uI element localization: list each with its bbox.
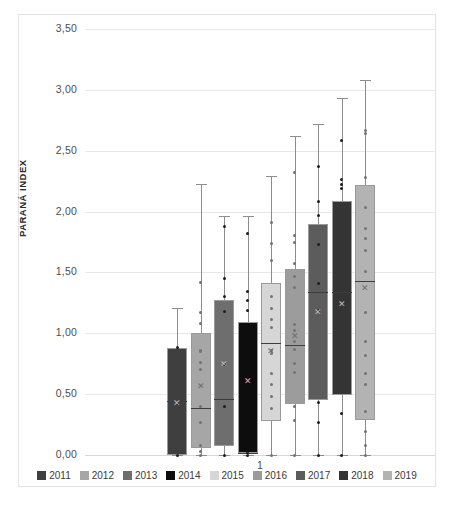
legend-item-label: 2012: [92, 470, 114, 481]
mean-marker: ✕: [313, 308, 323, 317]
data-point: [364, 129, 367, 132]
legend-item-label: 2015: [222, 470, 244, 481]
data-point: [270, 221, 273, 224]
legend-swatch-icon: [37, 471, 46, 480]
data-point: [293, 286, 296, 289]
data-point: [223, 295, 226, 298]
chart-legend: 201120122013201420152016201720182019: [19, 470, 435, 481]
whisker-cap-max: [313, 124, 324, 125]
legend-swatch-icon: [210, 471, 219, 480]
mean-marker: ✕: [243, 377, 253, 386]
data-point: [223, 454, 226, 457]
data-point: [293, 262, 296, 265]
data-point: [364, 270, 367, 273]
median-line: [308, 292, 328, 293]
y-axis-tick-label: 3,00: [31, 83, 77, 95]
data-point: [246, 290, 249, 293]
data-point: [364, 383, 367, 386]
gridline: [85, 394, 435, 395]
data-point: [199, 421, 202, 424]
data-point: [199, 405, 202, 408]
legend-item-label: 2019: [395, 470, 417, 481]
data-point: [364, 454, 367, 457]
whisker-cap-max: [290, 136, 301, 137]
legend-swatch-icon: [383, 471, 392, 480]
data-point: [199, 281, 202, 284]
data-point: [199, 450, 202, 453]
data-point: [364, 354, 367, 357]
data-point: [317, 421, 320, 424]
mean-marker: ✕: [219, 360, 229, 369]
legend-item[interactable]: 2011: [37, 470, 71, 481]
data-point: [317, 282, 320, 285]
data-point: [246, 299, 249, 302]
y-axis-tick-label: 1,00: [31, 326, 77, 338]
data-point: [293, 371, 296, 374]
whisker-cap-max: [337, 98, 348, 99]
plot-inner: 0,000,501,001,502,002,503,003,50 ✕✕✕✕✕✕✕…: [85, 29, 435, 455]
whisker-cap-max: [172, 308, 183, 309]
gridline: [85, 455, 435, 456]
data-point: [270, 395, 273, 398]
y-axis-tick-label: 1,50: [31, 265, 77, 277]
data-point: [317, 401, 320, 404]
median-line: [355, 281, 375, 282]
data-point: [340, 187, 343, 190]
data-point: [199, 361, 202, 364]
data-point: [293, 275, 296, 278]
data-point: [293, 171, 296, 174]
data-point: [293, 405, 296, 408]
legend-item[interactable]: 2018: [339, 470, 373, 481]
data-point: [317, 214, 320, 217]
y-axis-tick-label: 0,50: [31, 387, 77, 399]
mean-marker: ✕: [290, 332, 300, 341]
mean-marker: ✕: [172, 399, 182, 408]
data-point: [317, 454, 320, 457]
legend-item-label: 2011: [49, 470, 71, 481]
data-point: [293, 241, 296, 244]
data-point: [270, 259, 273, 262]
data-point: [270, 242, 273, 245]
data-point: [270, 407, 273, 410]
y-axis-tick-label: 2,00: [31, 205, 77, 217]
legend-swatch-icon: [296, 471, 305, 480]
data-point: [223, 277, 226, 280]
mean-marker: ✕: [337, 300, 347, 309]
gridline: [85, 212, 435, 213]
data-point: [364, 410, 367, 413]
data-point: [176, 454, 179, 457]
data-point: [270, 295, 273, 298]
y-axis-tick-label: 2,50: [31, 144, 77, 156]
whisker-cap-max: [219, 216, 230, 217]
data-point: [340, 183, 343, 186]
legend-item[interactable]: 2013: [123, 470, 157, 481]
data-point: [364, 176, 367, 179]
data-point: [270, 326, 273, 329]
legend-item[interactable]: 2014: [166, 470, 200, 481]
legend-item[interactable]: 2019: [383, 470, 417, 481]
data-point: [246, 309, 249, 312]
legend-item[interactable]: 2016: [253, 470, 287, 481]
legend-item[interactable]: 2017: [296, 470, 330, 481]
data-point: [364, 237, 367, 240]
legend-item-label: 2014: [178, 470, 200, 481]
data-point: [270, 454, 273, 457]
legend-item-label: 2018: [351, 470, 373, 481]
legend-item[interactable]: 2012: [80, 470, 114, 481]
data-point: [340, 178, 343, 181]
legend-item[interactable]: 2015: [210, 470, 244, 481]
whisker-cap-max: [266, 176, 277, 177]
data-point: [364, 372, 367, 375]
data-point: [199, 311, 202, 314]
box-rect: [238, 322, 258, 452]
whisker-cap-max: [243, 216, 254, 217]
median-line: [261, 343, 281, 344]
y-axis-tick-label: 3,50: [31, 22, 77, 34]
data-point: [223, 225, 226, 228]
mean-marker: ✕: [360, 284, 370, 293]
legend-swatch-icon: [253, 471, 262, 480]
mean-marker: ✕: [196, 382, 206, 391]
data-point: [364, 340, 367, 343]
data-point: [364, 132, 367, 135]
data-point: [270, 372, 273, 375]
